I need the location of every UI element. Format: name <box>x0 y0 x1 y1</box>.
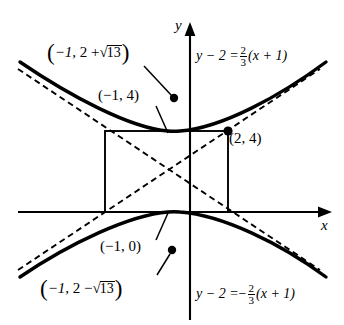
label-asymptote-equation-positive: y − 2 =23(x + 1) <box>196 45 287 68</box>
x-axis-label: x <box>321 218 328 233</box>
paren-open: ( <box>40 280 48 298</box>
coord-y-lead: 2 + <box>80 44 100 60</box>
reference-box <box>105 131 228 212</box>
fraction-denominator: 3 <box>248 294 256 306</box>
label-point-neg1-4: (−1, 4) <box>98 88 139 103</box>
label-upper-focus-point: (−1, 2 +√13) <box>47 44 129 62</box>
fraction-denominator: 3 <box>240 56 248 68</box>
equation-lhs: y − 2 = <box>196 286 239 301</box>
radical-lower: √13 <box>93 281 115 296</box>
fraction-two-thirds: 23 <box>248 283 256 306</box>
fraction-numerator: 2 <box>248 283 256 294</box>
equation-rhs: (x + 1) <box>248 48 287 63</box>
leader-lower-focus <box>157 254 170 275</box>
equation-lhs: y − 2 = <box>196 48 239 63</box>
paren-close: ) <box>115 280 123 298</box>
label-asymptote-equation-negative: y − 2 =−23(x + 1) <box>196 283 295 306</box>
equation-sign: − <box>239 286 247 301</box>
label-point-neg1-0: (−1, 0) <box>100 239 141 254</box>
upper-focus-dot <box>170 94 178 102</box>
coord-x: −1, <box>48 280 69 296</box>
radicand: 13 <box>100 281 115 296</box>
leader-lower-vertex <box>156 213 168 240</box>
paren-close: ) <box>122 44 130 62</box>
label-lower-focus-point: (−1, 2 −√13) <box>40 280 122 298</box>
fraction-numerator: 2 <box>240 45 248 56</box>
coord-x: −1, <box>55 44 76 60</box>
paren-open: ( <box>47 44 55 62</box>
radical-upper: √13 <box>100 45 122 60</box>
radicand: 13 <box>107 45 122 60</box>
lower-focus-dot <box>168 246 176 254</box>
label-point-2-4: (2, 4) <box>229 131 262 146</box>
x-axis-arrowhead <box>318 207 332 218</box>
coord-y-lead: 2 − <box>73 280 93 296</box>
y-axis-arrowhead <box>185 22 196 36</box>
equation-rhs: (x + 1) <box>256 286 295 301</box>
y-axis-label: y <box>175 18 182 33</box>
fraction-two-thirds: 23 <box>240 45 248 68</box>
leader-upper-focus <box>144 66 172 96</box>
